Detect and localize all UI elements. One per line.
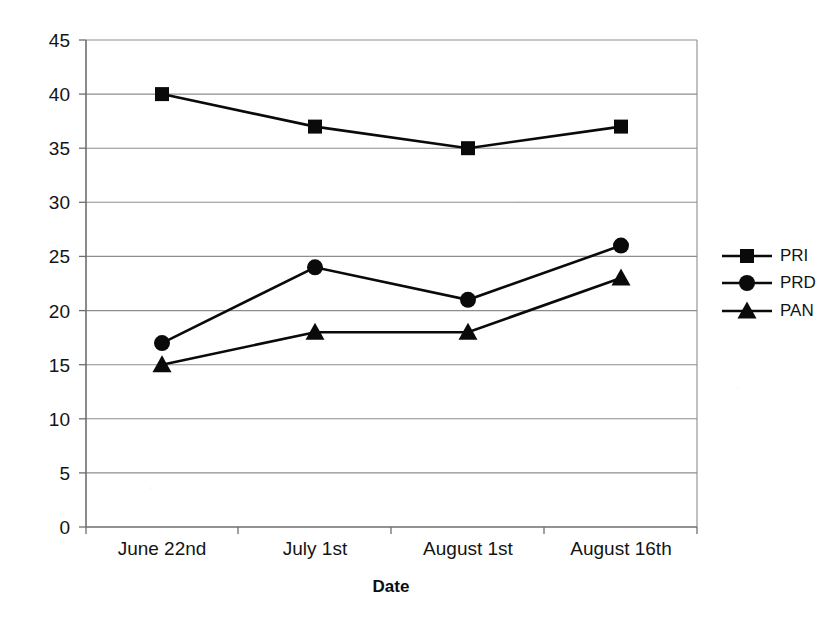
y-tick-label: 10 bbox=[49, 409, 70, 430]
y-tick-label: 35 bbox=[49, 138, 70, 159]
circle-marker bbox=[307, 259, 323, 275]
line-chart-figure: 45 40 35 30 25 20 15 10 5 0 June 22nd Ju… bbox=[0, 0, 838, 626]
square-marker bbox=[155, 87, 169, 101]
y-tick-label: 0 bbox=[59, 517, 70, 538]
square-marker bbox=[740, 249, 754, 263]
legend-label-pri: PRI bbox=[780, 246, 808, 265]
chart-canvas: 45 40 35 30 25 20 15 10 5 0 June 22nd Ju… bbox=[0, 0, 838, 626]
y-tick-label: 25 bbox=[49, 246, 70, 267]
y-tick-label: 45 bbox=[49, 30, 70, 51]
circle-marker bbox=[739, 275, 755, 291]
square-marker bbox=[461, 141, 475, 155]
y-tick-label: 30 bbox=[49, 192, 70, 213]
y-tick-label: 5 bbox=[59, 463, 70, 484]
square-marker bbox=[614, 120, 628, 134]
x-tick-label: August 16th bbox=[570, 538, 671, 559]
circle-marker bbox=[460, 292, 476, 308]
y-tick-label: 15 bbox=[49, 355, 70, 376]
x-tick-label: August 1st bbox=[423, 538, 513, 559]
circle-marker bbox=[613, 238, 629, 254]
x-axis-title: Date bbox=[373, 577, 410, 596]
x-tick-label: June 22nd bbox=[118, 538, 207, 559]
y-tick-label: 20 bbox=[49, 301, 70, 322]
circle-marker bbox=[154, 335, 170, 351]
x-tick-label: July 1st bbox=[283, 538, 348, 559]
square-marker bbox=[308, 120, 322, 134]
y-tick-label: 40 bbox=[49, 84, 70, 105]
legend-label-prd: PRD bbox=[780, 273, 816, 292]
legend-label-pan: PAN bbox=[780, 301, 814, 320]
